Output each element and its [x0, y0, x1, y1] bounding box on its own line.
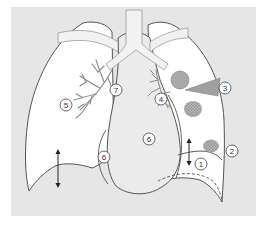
label-4: 4	[155, 93, 167, 105]
label-number: 6	[147, 135, 152, 144]
label-3: 3	[219, 82, 231, 94]
label-number: 1	[199, 160, 204, 169]
speckled-opacity-upper	[184, 101, 202, 117]
label-2: 2	[226, 145, 238, 157]
round-opacity	[171, 71, 189, 89]
label-1: 1	[195, 158, 207, 170]
label-number: 4	[159, 95, 164, 104]
label-number: 5	[64, 101, 69, 110]
label-5: 5	[60, 99, 72, 111]
speckled-opacity-lower	[203, 140, 219, 153]
label-7: 7	[110, 84, 122, 96]
label-number: 3	[223, 84, 228, 93]
diagram-stage: 12345667	[0, 0, 267, 230]
chest-diagram: 12345667	[0, 0, 267, 230]
label-6b: 6	[143, 133, 155, 145]
label-number: 7	[114, 86, 119, 95]
label-number: 2	[230, 147, 235, 156]
label-number: 6	[102, 153, 107, 162]
label-6a: 6	[98, 151, 110, 163]
